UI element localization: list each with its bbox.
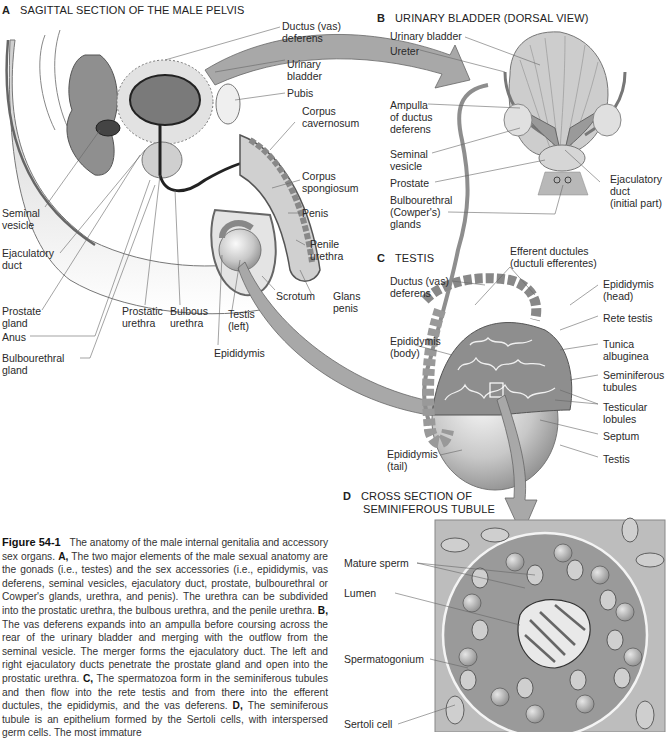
label-d-mature-sperm: Mature sperm (344, 557, 409, 569)
caption-marker-c: C, (83, 673, 93, 684)
label-d-spermatogonium: Spermatogonium (344, 653, 424, 665)
label-a-anus: Anus (2, 331, 26, 343)
label-a-bulbourethral-gland: Bulbourethral gland (2, 352, 64, 376)
label-c-testis: Testis (603, 453, 630, 465)
panel-d-title: DCROSS SECTION OF (343, 490, 472, 503)
label-b-prostate: Prostate (390, 177, 429, 189)
bladder-dorsal-drawing (504, 32, 625, 195)
label-b-urinary-bladder: Urinary bladder (390, 30, 462, 42)
label-a-testis-left: Testis (left) (228, 308, 255, 332)
label-c-rete-testis: Rete testis (603, 312, 653, 324)
label-a-ejaculatory-duct: Ejaculatory duct (2, 247, 54, 271)
panel-b-title: BURINARY BLADDER (DORSAL VIEW) (377, 12, 588, 25)
label-b-ampulla: Ampulla of ductus deferens (390, 99, 433, 135)
label-c-epididymis-tail: Epididymis (tail) (387, 448, 438, 472)
caption-marker-b: B, (318, 605, 328, 616)
figure-caption: Figure 54-1 The anatomy of the male inte… (2, 536, 328, 740)
label-b-ejaculatory-duct: Ejaculatory duct (initial part) (610, 173, 662, 209)
caption-marker-a: A, (58, 551, 68, 562)
label-c-septum: Septum (603, 430, 639, 442)
label-c-ductus-deferens: Ductus (vas) deferens (390, 275, 449, 299)
label-a-seminal-vesicle: Seminal vesicle (2, 207, 40, 231)
label-a-epididymis: Epididymis (214, 347, 265, 359)
label-c-epididymis-body: Epididymis (body) (390, 335, 441, 359)
label-a-penile-urethra: Penile urethra (310, 238, 343, 262)
label-d-lumen: Lumen (344, 587, 376, 599)
panel-a-title: ASAGITTAL SECTION OF THE MALE PELVIS (2, 4, 244, 17)
label-a-ductus-deferens: Ductus (vas) deferens (282, 20, 341, 44)
label-b-ureter: Ureter (390, 45, 419, 57)
label-a-glans-penis: Glans penis (333, 290, 360, 314)
tubule-cross-section-drawing (435, 518, 665, 732)
testis-drawing (425, 278, 572, 490)
pelvis-section-drawing (7, 30, 320, 314)
label-a-urinary-bladder: Urinary bladder (287, 58, 322, 82)
label-a-corpus-spongiosum: Corpus spongiosum (302, 170, 359, 194)
label-c-tunica-albuginea: Tunica albuginea (603, 338, 649, 362)
panel-c-title: CTESTIS (377, 252, 434, 265)
label-d-sertoli-cell: Sertoli cell (344, 718, 392, 730)
label-a-corpus-cavernosum: Corpus cavernosum (302, 105, 359, 129)
panel-d-title-line2: SEMINIFEROUS TUBULE (363, 503, 495, 516)
label-c-efferent-ductules: Efferent ductules (ductuli efferentes) (510, 245, 597, 269)
figure-number: Figure 54-1 (2, 536, 61, 548)
label-c-testicular-lobules: Testicular lobules (603, 401, 647, 425)
label-b-bulbourethral-glands: Bulbourethral (Cowper's) glands (390, 194, 452, 230)
caption-marker-d: D, (233, 700, 243, 711)
label-a-penis: Penis (302, 207, 328, 219)
label-a-prostate-gland: Prostate gland (2, 305, 41, 329)
label-a-scrotum: Scrotum (276, 290, 315, 302)
label-c-seminiferous-tubules: Seminiferous tubules (603, 369, 664, 393)
label-b-seminal-vesicle: Seminal vesicle (390, 148, 428, 172)
label-a-bulbous-urethra: Bulbous urethra (170, 305, 208, 329)
label-a-prostatic-urethra: Prostatic urethra (122, 305, 163, 329)
label-c-epididymis-head: Epididymis (head) (603, 278, 654, 302)
label-a-pubis: Pubis (287, 87, 313, 99)
